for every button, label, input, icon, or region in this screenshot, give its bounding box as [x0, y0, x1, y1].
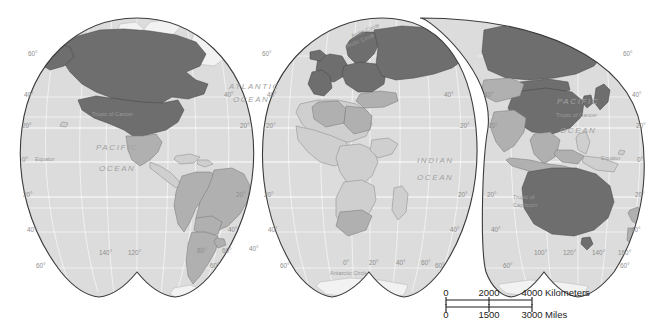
lat-label-right-40n: 40°: [632, 91, 642, 98]
ocean-label-atlantic: ATLANTIC: [228, 82, 280, 91]
lat-label-left-60n: 60°: [28, 50, 38, 57]
lat-label-lobe2l-20s: 20°: [264, 191, 274, 198]
lat-label-lobe1r-60s: 60°: [210, 262, 220, 269]
lon-label-60e: 60°: [421, 259, 431, 266]
lat-label-lobe2r-20s: 20°: [458, 191, 468, 198]
lon-label-20e: 20°: [369, 259, 379, 266]
lat-label-lobe2l-60s: 60°: [280, 262, 290, 269]
lat-label-lobe3l-20s: 20°: [487, 191, 497, 198]
lon-label-140e: 140°: [592, 249, 606, 256]
lat-label-lobe1r-40n: 40°: [224, 91, 234, 98]
lat-label-lobe3l-40n: 40°: [484, 91, 494, 98]
lat-label-left-20n: 20°: [22, 122, 32, 129]
scale-km-tick-0: 0: [443, 287, 448, 298]
lat-label-right-60s: 60°: [620, 262, 630, 269]
lon-label-80w: 80°: [197, 247, 207, 254]
lat-label-lobe2l-20n: 20°: [266, 122, 276, 129]
map-canvas: ATLANTIC OCEAN PACIFIC OCEAN INDIAN OCEA…: [0, 0, 662, 336]
ocean-label-atlantic-ocean: OCEAN: [233, 95, 269, 104]
lat-label-left-40s: 40°: [27, 226, 37, 233]
scale-mi-ruler: [446, 304, 532, 312]
lat-label-right-20s: 20°: [635, 191, 645, 198]
lat-label-lobe2r-40s: 40°: [450, 226, 460, 233]
lat-label-left-0: 0°: [22, 156, 29, 163]
scale-km-tick-2000: 2000: [478, 287, 499, 298]
lon-label-120w: 120°: [128, 249, 142, 256]
lon-label-100e: 100°: [534, 249, 548, 256]
ocean-label-indian-ocean: OCEAN: [417, 173, 453, 182]
reference-label-tropic-cancer-east: Tropic of Cancer: [556, 112, 597, 118]
lat-label-lobe2r-40n: 40°: [444, 91, 454, 98]
ocean-label-pacific-east-ocean: OCEAN: [560, 126, 596, 135]
lat-label-lobe2r-20n: 20°: [460, 122, 470, 129]
ocean-label-pacific-west-ocean: OCEAN: [99, 164, 135, 173]
reference-label-tropic-cancer-west: Tropic of Cancer: [92, 111, 133, 117]
lon-label-140w: 140°: [99, 249, 113, 256]
lat-label-right-20n: 20°: [636, 122, 646, 129]
lat-label-lobe1r-40s: 40°: [228, 226, 238, 233]
ocean-label-indian: INDIAN: [417, 156, 454, 165]
lat-label-right-60n: 60°: [623, 50, 633, 57]
lat-label-right-0: 0°: [637, 156, 644, 163]
reference-label-equator-west: Equator: [35, 156, 55, 162]
lat-label-lobe3l-40s: 40°: [491, 226, 501, 233]
lon-label-40e: 40°: [396, 259, 406, 266]
reference-label-tropic-capricorn-1: Tropic of: [513, 194, 535, 200]
scale-mi-unit: Miles: [545, 309, 567, 320]
lat-label-lobe1r-20n: 20°: [240, 122, 250, 129]
lat-label-lobe2l-60n: 60°: [262, 50, 272, 57]
lat-label-lobe2l-40s: 40°: [268, 226, 278, 233]
reference-label-antarctic-circle: Antarctic Circle: [330, 270, 368, 276]
lon-label-120e: 120°: [563, 249, 577, 256]
ocean-label-pacific-west: PACIFIC: [96, 143, 138, 152]
world-map-figure: ATLANTIC OCEAN PACIFIC OCEAN INDIAN OCEA…: [0, 0, 662, 336]
lat-label-lobe3l-60s: 60°: [503, 262, 513, 269]
lat-label-lobe3l-20n: 20°: [488, 122, 498, 129]
reference-label-tropic-capricorn-2: Capricorn: [513, 202, 537, 208]
scale-km-tick-4000: 4000: [521, 287, 542, 298]
reference-label-equator-east: Equator: [601, 155, 621, 161]
lon-label-160e: 160°: [618, 249, 632, 256]
scale-km-unit: Kilometers: [545, 287, 590, 298]
lat-label-lobe2r-60s: 60°: [435, 262, 445, 269]
lon-label-60w: 60°: [222, 247, 232, 254]
lat-label-left-20s: 20°: [23, 191, 33, 198]
lat-label-right-40s: 40°: [631, 226, 641, 233]
scale-km-ruler: [446, 297, 532, 305]
lon-label-40w: 40°: [249, 245, 259, 252]
ocean-label-pacific-east: PACIFIC: [557, 97, 599, 106]
lat-label-left-60s: 60°: [36, 262, 46, 269]
lat-label-lobe1r-20s: 20°: [236, 191, 246, 198]
lon-label-0: 0°: [343, 259, 350, 266]
lat-label-left-40n: 40°: [24, 91, 34, 98]
lat-label-lobe2l-40n: 40°: [267, 91, 277, 98]
